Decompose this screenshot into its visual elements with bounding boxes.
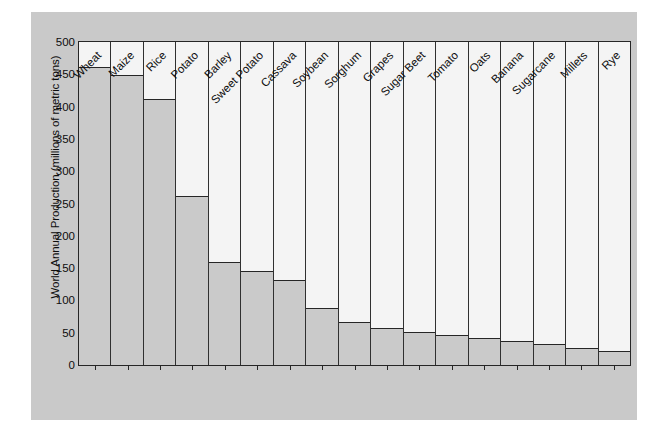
bar-column[interactable] — [339, 42, 371, 365]
bar-fill[interactable] — [79, 67, 110, 365]
bar-fill[interactable] — [111, 75, 142, 365]
bar-column[interactable] — [436, 42, 468, 365]
y-tick-label: 100 — [45, 294, 79, 306]
bar-column[interactable] — [599, 42, 630, 365]
y-tick: 400 — [45, 101, 79, 113]
y-tick-label: 300 — [45, 165, 79, 177]
x-tick-mark — [581, 365, 582, 370]
x-tick-mark — [484, 365, 485, 370]
bar-fill[interactable] — [599, 351, 630, 365]
bar-column[interactable] — [176, 42, 208, 365]
y-tick-label: 500 — [45, 36, 79, 48]
bar-series — [79, 42, 630, 365]
bar-column[interactable] — [144, 42, 176, 365]
y-tick-label: 50 — [45, 327, 79, 339]
bar-column[interactable] — [469, 42, 501, 365]
y-tick-label: 150 — [45, 262, 79, 274]
bar-fill[interactable] — [566, 348, 597, 365]
x-tick-mark — [192, 365, 193, 370]
y-tick: 100 — [45, 294, 79, 306]
bar-fill[interactable] — [274, 280, 305, 365]
y-tick-label: 350 — [45, 133, 79, 145]
x-tick-mark — [290, 365, 291, 370]
x-tick-mark — [614, 365, 615, 370]
y-tick: 50 — [45, 327, 79, 339]
y-tick-label: 200 — [45, 230, 79, 242]
y-tick: 350 — [45, 133, 79, 145]
bar-fill[interactable] — [371, 328, 402, 365]
x-tick-mark — [517, 365, 518, 370]
chart-figure-panel: World Annual Production (millions of met… — [31, 12, 637, 420]
y-tick: 0 — [45, 359, 79, 371]
y-tick: 300 — [45, 165, 79, 177]
bar-column[interactable] — [241, 42, 273, 365]
bar-column[interactable] — [306, 42, 338, 365]
x-tick-mark — [160, 365, 161, 370]
bar-column[interactable] — [79, 42, 111, 365]
x-tick-mark — [549, 365, 550, 370]
bar-fill[interactable] — [534, 344, 565, 365]
plot-area: 050100150200250300350400450500 WheatMaiz… — [78, 41, 631, 366]
bar-fill[interactable] — [209, 262, 240, 365]
bar-fill[interactable] — [144, 99, 175, 365]
bar-column[interactable] — [566, 42, 598, 365]
y-tick: 200 — [45, 230, 79, 242]
bar-fill[interactable] — [306, 308, 337, 365]
bar-column[interactable] — [274, 42, 306, 365]
bar-column[interactable] — [111, 42, 143, 365]
bar-fill[interactable] — [176, 196, 207, 365]
y-tick: 250 — [45, 198, 79, 210]
bar-fill[interactable] — [501, 341, 532, 365]
bar-fill[interactable] — [469, 338, 500, 365]
x-tick-mark — [95, 365, 96, 370]
bar-column[interactable] — [534, 42, 566, 365]
x-tick-mark — [257, 365, 258, 370]
x-tick-mark — [419, 365, 420, 370]
x-tick-mark — [355, 365, 356, 370]
bar-fill[interactable] — [436, 335, 467, 365]
bar-fill[interactable] — [404, 332, 435, 365]
x-tick-mark — [128, 365, 129, 370]
y-tick-label: 250 — [45, 198, 79, 210]
y-tick: 500 — [45, 36, 79, 48]
y-tick: 150 — [45, 262, 79, 274]
bar-fill[interactable] — [339, 322, 370, 365]
x-tick-mark — [452, 365, 453, 370]
bar-column[interactable] — [404, 42, 436, 365]
bar-fill[interactable] — [241, 271, 272, 365]
x-tick-mark — [387, 365, 388, 370]
y-tick-label: 0 — [45, 359, 79, 371]
x-tick-mark — [225, 365, 226, 370]
x-tick-mark — [322, 365, 323, 370]
y-tick-label: 400 — [45, 101, 79, 113]
